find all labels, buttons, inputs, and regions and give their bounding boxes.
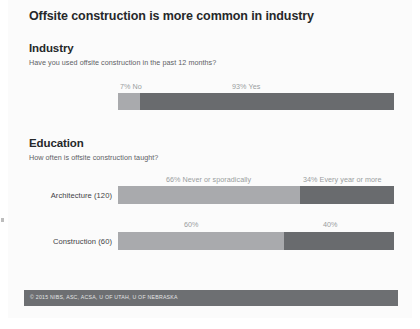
industry-section-question: Have you used offsite construction in th… bbox=[29, 58, 216, 67]
architecture-segment-every-year bbox=[300, 186, 394, 204]
category-label-architecture: Architecture (120) bbox=[30, 191, 112, 200]
industry-label-yes: 93% Yes bbox=[232, 82, 260, 91]
industry-stacked-bar bbox=[118, 93, 394, 110]
page-title: Offsite construction is more common in i… bbox=[29, 9, 314, 23]
edge-artifact bbox=[1, 218, 4, 222]
construction-stacked-bar bbox=[118, 232, 394, 250]
construction-segment-never bbox=[118, 232, 284, 250]
construction-label-every-year: 40% bbox=[323, 220, 338, 229]
slide-card: Offsite construction is more common in i… bbox=[8, 0, 412, 318]
industry-section-title: Industry bbox=[29, 42, 74, 54]
architecture-stacked-bar bbox=[118, 186, 394, 204]
education-section-title: Education bbox=[29, 137, 84, 149]
construction-label-never: 60% bbox=[184, 220, 199, 229]
construction-segment-every-year bbox=[284, 232, 394, 250]
architecture-segment-never bbox=[118, 186, 300, 204]
architecture-label-every-year: 34% Every year or more bbox=[303, 175, 382, 184]
industry-segment-yes bbox=[140, 93, 394, 110]
architecture-label-never: 66% Never or sporadically bbox=[166, 175, 251, 184]
industry-label-no: 7% No bbox=[120, 82, 142, 91]
education-section-question: How often is offsite construction taught… bbox=[29, 153, 158, 162]
category-label-construction: Construction (60) bbox=[30, 237, 112, 246]
industry-segment-no bbox=[118, 93, 140, 110]
footer-credit: © 2015 NIBS, ASC, ACSA, U OF UTAH, U OF … bbox=[30, 294, 178, 300]
footer-bar: © 2015 NIBS, ASC, ACSA, U OF UTAH, U OF … bbox=[24, 290, 398, 306]
